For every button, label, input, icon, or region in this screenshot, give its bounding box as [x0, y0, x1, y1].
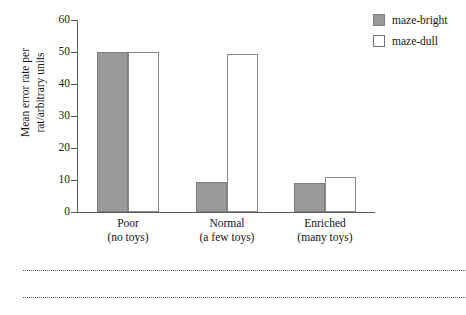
legend-swatch-open-square-icon	[373, 35, 385, 47]
dotted-rule-lower	[23, 297, 466, 299]
y-tick-label-40: 40	[0, 78, 70, 89]
bar-normal-maze-bright	[196, 182, 227, 212]
x-group-label-normal-sub: (a few toys)	[172, 230, 282, 244]
y-tick-label-50: 50	[0, 46, 70, 57]
bar-poor-maze-dull	[128, 52, 159, 212]
legend-label-maze-bright: maze-bright	[392, 14, 448, 26]
bar-normal-maze-dull	[227, 54, 258, 212]
legend-label-maze-dull: maze-dull	[392, 35, 438, 47]
x-group-label-enriched: Enriched (many toys)	[270, 216, 380, 244]
x-axis-line	[77, 212, 375, 213]
x-group-label-enriched-sub: (many toys)	[270, 230, 380, 244]
legend-item-maze-bright: maze-bright	[373, 11, 466, 28]
x-group-label-poor: Poor (no toys)	[73, 216, 183, 244]
bar-chart-figure: Mean error rate per rat/arbitrary units …	[0, 0, 466, 315]
x-group-label-poor-sub: (no toys)	[73, 230, 183, 244]
y-tick-label-30: 30	[0, 110, 70, 121]
bar-enriched-maze-dull	[325, 177, 356, 212]
plot-area	[78, 20, 375, 212]
legend-item-maze-dull: maze-dull	[373, 32, 466, 49]
x-group-label-normal: Normal (a few toys)	[172, 216, 282, 244]
bar-enriched-maze-bright	[294, 183, 325, 212]
x-group-label-normal-main: Normal	[209, 217, 244, 229]
bar-poor-maze-bright	[97, 52, 128, 212]
dotted-rule-upper	[23, 270, 466, 272]
legend: maze-bright maze-dull	[373, 11, 466, 53]
x-group-label-enriched-main: Enriched	[304, 217, 346, 229]
y-tick-label-10: 10	[0, 174, 70, 185]
legend-swatch-filled-square-icon	[373, 14, 385, 26]
y-tick-label-20: 20	[0, 142, 70, 153]
x-group-label-poor-main: Poor	[117, 217, 139, 229]
y-tick-label-0: 0	[0, 206, 70, 217]
y-tick-label-60: 60	[0, 14, 70, 25]
